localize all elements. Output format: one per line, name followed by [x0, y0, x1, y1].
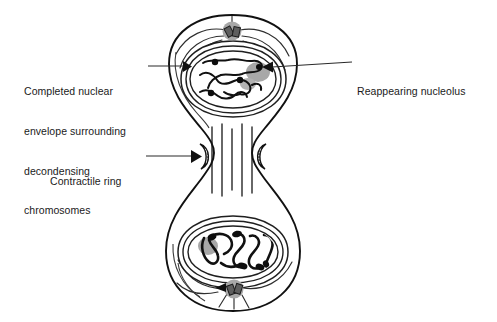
centrosome-top [223, 22, 242, 41]
label-line: envelope surrounding [24, 125, 126, 138]
upper-nucleus [181, 41, 286, 117]
figure-canvas: Completed nuclear envelope surrounding d… [0, 0, 497, 322]
nucleolus-leader [272, 62, 352, 67]
contractile-ring-right[interactable] [258, 144, 266, 169]
kinetochore [256, 64, 262, 70]
centriole [232, 26, 240, 37]
label-contractile-ring: Contractile ring [50, 149, 121, 215]
centrosome-bottom [225, 280, 244, 299]
kinetochore [237, 77, 243, 83]
kinetochore [208, 90, 214, 96]
label-line: Completed nuclear [24, 85, 126, 98]
label-line: Reappearing nucleolus [357, 85, 465, 98]
kinetochore [212, 59, 218, 65]
lower-nucleus [178, 216, 288, 288]
arrowhead-right [191, 150, 202, 163]
midbody-microtubule-bundle [212, 124, 252, 196]
label-reappearing-nucleolus: Reappearing nucleolus [357, 59, 465, 125]
label-line: Contractile ring [50, 175, 121, 188]
